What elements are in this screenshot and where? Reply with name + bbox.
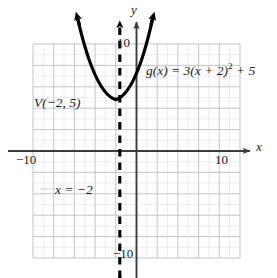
axis-of-symmetry-label: x = −2 xyxy=(55,183,93,197)
y-axis-label: y xyxy=(131,3,137,16)
y-tick-label-positive-ten: 10 xyxy=(117,36,130,49)
coordinate-plane-svg xyxy=(0,0,277,278)
x-tick-label-positive-ten: 10 xyxy=(215,153,228,166)
x-axis-label: x xyxy=(256,140,262,153)
function-equation-label: g(x) = 3(x + 2)2 + 5 xyxy=(146,62,255,77)
function-equation-base: g(x) = 3(x + 2) xyxy=(146,63,228,78)
vertex-label: V(−2, 5) xyxy=(34,96,81,110)
y-tick-label-negative-ten: −10 xyxy=(113,247,133,260)
x-tick-label-negative-ten: −10 xyxy=(16,153,36,166)
function-equation-tail: + 5 xyxy=(233,63,256,78)
parabola-curve xyxy=(78,20,152,100)
graph-figure: y x −10 10 10 −10 V(−2, 5) x = −2 g(x) =… xyxy=(0,0,277,278)
